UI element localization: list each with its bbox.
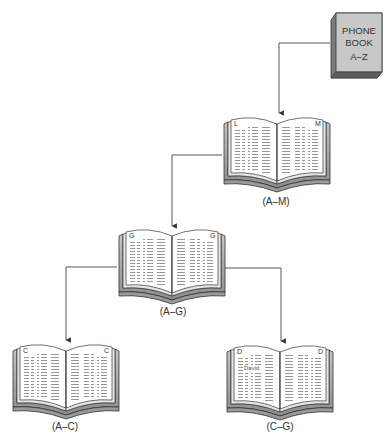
phone-book-icon: PHONE BOOK A–Z (331, 13, 382, 78)
book-ag-label: (A–G) (133, 306, 213, 317)
left-page-letter: C (23, 347, 28, 354)
left-page-letter: L (234, 120, 238, 127)
book-am-label: (A–M) (236, 196, 316, 207)
open-book-am: L M (224, 118, 330, 192)
book-cg-label: (C–G) (240, 421, 320, 432)
phone-book-line-2: BOOK (345, 37, 373, 48)
arrow-am-to-ag (172, 155, 222, 226)
right-page-letter: D (318, 348, 323, 355)
binary-search-diagram: PHONE BOOK A–Z L M G G C C D D David (0, 0, 390, 446)
right-page-letter: M (315, 120, 321, 127)
arrow-phonebook-to-am (279, 43, 330, 113)
left-page-letter: G (129, 232, 134, 239)
right-page-letter: C (104, 347, 109, 354)
open-book-ac: C C (13, 345, 119, 419)
phone-book-line-3: A–Z (350, 51, 368, 62)
arrow-ag-to-ac (66, 267, 117, 340)
phone-book-line-1: PHONE (342, 25, 376, 36)
arrow-ag-to-cg (225, 268, 281, 341)
highlighted-entry: David (244, 365, 259, 371)
open-book-cg: D D David (227, 346, 333, 420)
left-page-letter: D (237, 348, 242, 355)
right-page-letter: G (210, 232, 215, 239)
book-ac-label: (A–C) (25, 421, 105, 432)
open-book-ag: G G (119, 230, 225, 304)
